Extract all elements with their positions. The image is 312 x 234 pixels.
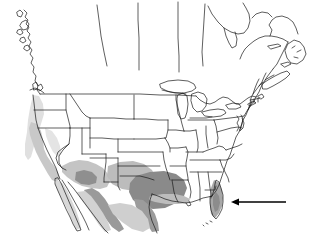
map-canvas (0, 0, 312, 234)
range-map-figure (0, 0, 312, 234)
